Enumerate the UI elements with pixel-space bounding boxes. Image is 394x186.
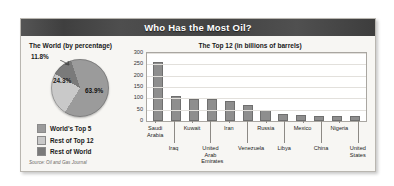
legend-label: Rest of World: [50, 148, 91, 155]
grid-line: [147, 98, 366, 99]
infographic-card: Who Has the Most Oil? The World (by perc…: [20, 18, 376, 172]
y-axis-tick: 300: [134, 49, 143, 55]
pie-slice-label-top12: 24.3%: [53, 77, 71, 84]
y-axis-tick: 100: [134, 94, 143, 100]
x-axis-label-text: Kuwait: [183, 125, 201, 132]
y-axis-tick: 150: [134, 83, 143, 89]
y-axis-tick: 200: [134, 72, 143, 78]
y-axis-tick: 0: [140, 117, 143, 123]
legend-label: Rest of Top 12: [50, 137, 94, 144]
legend-swatch-icon: [37, 136, 46, 145]
x-axis-tick-icon: [266, 121, 267, 123]
x-axis-tick-icon: [192, 121, 193, 123]
x-axis-label-text: Libya: [275, 145, 293, 152]
x-axis-tick-icon: [321, 121, 322, 143]
bar: [225, 101, 235, 121]
x-axis-label-text: United States: [349, 145, 367, 158]
bar-chart-title: The Top 12 (in billions of barrels): [129, 42, 371, 49]
x-axis-label-text: Saudi Arabia: [146, 125, 164, 138]
grid-line: [147, 110, 366, 111]
x-axis-label-text: Russia: [257, 125, 275, 132]
bar-chart-panel: The Top 12 (in billions of barrels) 0501…: [129, 40, 371, 170]
page-title: Who Has the Most Oil?: [144, 22, 252, 33]
legend-label: World's Top 5: [50, 125, 91, 132]
x-axis-labels: Saudi ArabiaIraqKuwaitUnited Arab Emirat…: [146, 121, 367, 177]
x-axis-tick-icon: [229, 121, 230, 123]
bar: [243, 105, 253, 121]
pie-slice-label-top5: 63.9%: [85, 87, 103, 94]
pie-chart-panel: The World (by percentage) 63.9% 24.3% 11…: [27, 40, 131, 168]
x-axis-tick-icon: [303, 121, 304, 123]
legend-item-rest: Rest of World: [37, 147, 131, 156]
pie-chart-title: The World (by percentage): [29, 42, 131, 49]
x-axis-tick-icon: [339, 121, 340, 123]
grid-line: [147, 53, 366, 54]
infographic-page: Who Has the Most Oil? The World (by perc…: [0, 0, 394, 186]
x-axis-tick-icon: [155, 121, 156, 123]
y-axis-tick: 50: [137, 106, 143, 112]
title-bar: Who Has the Most Oil?: [21, 19, 375, 36]
bar-chart-plot: 050100150200250300 Saudi ArabiaIraqKuwai…: [129, 52, 371, 126]
legend-item-top5: World's Top 5: [37, 124, 131, 133]
pie-leader-line-icon: [60, 60, 71, 66]
grid-line: [147, 64, 366, 65]
x-axis-label-text: Nigeria: [330, 125, 348, 132]
x-axis-tick-icon: [358, 121, 359, 143]
x-axis-label-text: Iraq: [164, 145, 182, 152]
x-axis-label-text: China: [312, 145, 330, 152]
x-axis-label-text: Mexico: [293, 125, 311, 132]
x-axis-tick-icon: [174, 121, 175, 143]
pie-chart-area: 63.9% 24.3% 11.8%: [27, 51, 131, 123]
y-axis-tick: 250: [134, 60, 143, 66]
pie-legend: World's Top 5 Rest of Top 12 Rest of Wor…: [37, 124, 131, 156]
pie-slice-label-rest: 11.8%: [31, 53, 49, 60]
bar: [153, 62, 163, 121]
x-axis-label-text: Venezuela: [238, 145, 256, 152]
legend-item-top12: Rest of Top 12: [37, 136, 131, 145]
chart-body: The World (by percentage) 63.9% 24.3% 11…: [21, 36, 375, 171]
grid-line: [147, 76, 366, 77]
x-axis-tick-icon: [210, 121, 211, 143]
legend-swatch-icon: [37, 147, 46, 156]
bar: [171, 96, 181, 121]
x-axis-label-text: United Arab Emirates: [201, 145, 219, 165]
plot-grid: [146, 52, 367, 122]
x-axis-tick-icon: [284, 121, 285, 143]
x-axis-label-text: Iran: [220, 125, 238, 132]
source-note: Source: Oil and Gas Journal: [29, 160, 131, 165]
grid-line: [147, 87, 366, 88]
bar: [260, 110, 270, 121]
y-axis-labels: 050100150200250300: [129, 52, 144, 120]
legend-swatch-icon: [37, 124, 46, 133]
x-axis-tick-icon: [247, 121, 248, 143]
